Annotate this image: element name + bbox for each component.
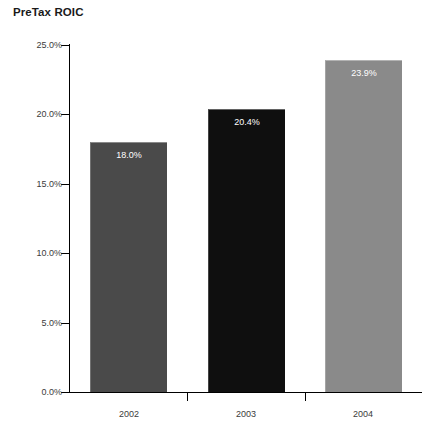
x-axis-tick-mark: [187, 392, 188, 401]
chart-title: PreTax ROIC: [13, 6, 84, 18]
y-axis-tick-mark: [61, 253, 70, 254]
x-axis-category-label: 2002: [119, 409, 139, 419]
y-axis-tick-label: 5.0%: [0, 318, 62, 328]
x-axis-category-label: 2004: [353, 409, 373, 419]
y-axis-tick-label: 25.0%: [0, 40, 62, 50]
bar-2003[interactable]: 20.4%: [208, 109, 285, 392]
bar-value-label: 23.9%: [326, 68, 402, 78]
chart-container: PreTax ROIC 25.0%20.0%15.0%10.0%5.0%0.0%…: [0, 0, 437, 440]
x-axis-tick-mark: [305, 392, 306, 401]
y-axis-tick-label: 10.0%: [0, 248, 62, 258]
y-axis-tick-mark: [61, 392, 70, 393]
y-axis-tick-mark: [61, 323, 70, 324]
bar-2004[interactable]: 23.9%: [325, 60, 402, 392]
x-axis-category-label: 2003: [236, 409, 256, 419]
y-axis-tick-mark: [61, 184, 70, 185]
bar-2002[interactable]: 18.0%: [90, 142, 167, 392]
y-axis-tick-label: 20.0%: [0, 109, 62, 119]
y-axis-tick-mark: [61, 114, 70, 115]
y-axis-tick-label: 0.0%: [0, 387, 62, 397]
bar-value-label: 20.4%: [209, 117, 285, 127]
y-axis-line: [69, 44, 70, 393]
y-axis-tick-mark: [61, 45, 70, 46]
bar-value-label: 18.0%: [91, 150, 167, 160]
x-axis-line: [61, 392, 422, 393]
y-axis-tick-label: 15.0%: [0, 179, 62, 189]
